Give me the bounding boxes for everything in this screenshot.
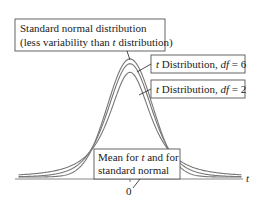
annotation-normal-line1: Standard normal distribution <box>20 22 147 34</box>
annotation-mean-pointer <box>133 179 140 188</box>
annotation-df6: t Distribution, df = 6 <box>137 55 247 73</box>
annotation-df2-text: t Distribution, df = 2 <box>156 83 246 95</box>
annotation-df2: t Distribution, df = 2 <box>139 80 246 98</box>
annotation-normal: Standard normal distribution (less varia… <box>15 19 173 60</box>
annotation-mean-line2: standard normal <box>98 164 169 176</box>
x-tick-label-zero: 0 <box>126 185 132 197</box>
annotation-df6-text: t Distribution, df = 6 <box>156 58 247 70</box>
annotation-mean: Mean for t and for standard normal <box>94 149 180 188</box>
x-axis-label: t <box>246 172 250 184</box>
t-distribution-chart: t 0 Standard normal distribution (less v… <box>0 0 270 199</box>
annotation-mean-line1: Mean for t and for <box>98 151 179 163</box>
annotation-normal-line2: (less variability than t distribution) <box>20 36 173 49</box>
